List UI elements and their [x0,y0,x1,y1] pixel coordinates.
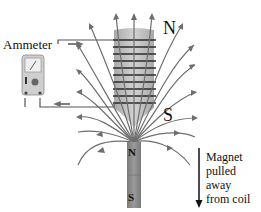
coil-south-pole-label: S [163,105,173,126]
caption-line: Magnet [206,150,261,164]
caption-line: away [206,178,261,192]
motion-caption: Magnet pulled away from coil [206,150,261,206]
motion-arrow [196,148,203,208]
ammeter [22,55,44,95]
ammeter-label: Ammeter [3,37,52,53]
coil-north-pole-label: N [163,18,176,39]
current-arrows [57,44,80,104]
induction-diagram: Ammeter N S N S Magnet pulled away from … [0,0,261,212]
magnet-north-label: N [128,146,136,158]
caption-line: from coil [206,192,261,206]
caption-line: pulled [206,164,261,178]
magnet-south-label: S [128,191,134,203]
